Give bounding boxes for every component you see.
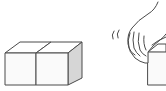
motion-mark-1: [112, 31, 114, 39]
cube-front-face-left: [5, 53, 36, 85]
motion-mark-2: [117, 30, 119, 38]
two-cubes-group: [5, 42, 82, 85]
grasped-cube-front: [148, 52, 166, 85]
illustration: [0, 0, 166, 91]
hand-grasping-cube-group: [112, 2, 166, 85]
cube-front-face-right: [36, 53, 68, 85]
